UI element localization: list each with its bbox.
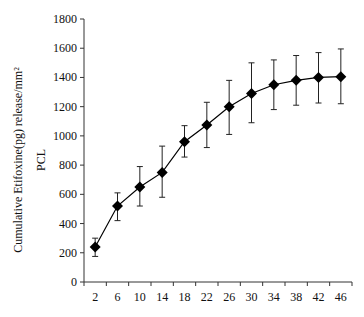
x-tick-label: 2 — [92, 290, 98, 304]
diamond-marker — [313, 72, 324, 83]
diamond-marker — [179, 136, 190, 147]
x-tick-label: 46 — [335, 290, 347, 304]
y-axis-label: Cumulative Etifoxine(pg) release/mm² — [11, 67, 25, 253]
diamond-marker — [246, 88, 257, 99]
x-ticks: 2610141822263034384246 — [84, 282, 352, 304]
x-tick-label: 34 — [268, 290, 280, 304]
y-tick-label: 1400 — [53, 70, 77, 84]
x-tick-label: 18 — [179, 290, 191, 304]
y-tick-label: 800 — [59, 158, 77, 172]
error-bars — [92, 49, 344, 256]
x-tick-label: 38 — [290, 290, 302, 304]
y-tick-label: 0 — [71, 275, 77, 289]
diamond-marker — [90, 241, 101, 252]
y-axis-label-group: Cumulative Etifoxine(pg) release/mm² PCL — [11, 67, 48, 253]
x-tick-label: 42 — [313, 290, 325, 304]
x-tick-label: 6 — [115, 290, 121, 304]
x-tick-label: 10 — [134, 290, 146, 304]
diamond-marker — [268, 79, 279, 90]
y-ticks: 020040060080010001200140016001800 — [53, 12, 84, 289]
x-tick-label: 14 — [156, 290, 168, 304]
axes — [84, 19, 352, 282]
x-tick-label: 22 — [201, 290, 213, 304]
y-tick-label: 400 — [59, 217, 77, 231]
y-tick-label: 1800 — [53, 12, 77, 26]
diamond-marker — [335, 71, 346, 82]
y-tick-label: 1200 — [53, 100, 77, 114]
line-chart: Cumulative Etifoxine(pg) release/mm² PCL… — [0, 0, 364, 317]
data-series — [90, 71, 347, 252]
y-tick-label: 200 — [59, 246, 77, 260]
y-tick-label: 1600 — [53, 41, 77, 55]
y-tick-label: 600 — [59, 187, 77, 201]
series-line — [95, 77, 341, 247]
y-axis-sublabel: PCL — [34, 149, 48, 171]
x-tick-label: 26 — [223, 290, 235, 304]
diamond-marker — [157, 167, 168, 178]
diamond-marker — [291, 75, 302, 86]
y-tick-label: 1000 — [53, 129, 77, 143]
x-tick-label: 30 — [246, 290, 258, 304]
